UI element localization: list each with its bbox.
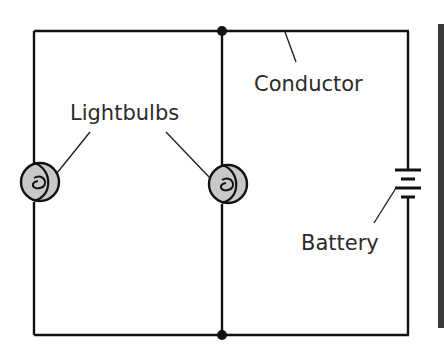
bottom-junction-dot bbox=[217, 330, 227, 340]
battery-pointer bbox=[374, 188, 396, 223]
lightbulbs-pointer-left bbox=[57, 132, 90, 173]
conductor-label: Conductor bbox=[254, 72, 363, 96]
circuit-diagram: Conductor Lightbulbs Battery bbox=[0, 0, 444, 364]
battery-icon bbox=[395, 170, 421, 197]
middle-lightbulb-icon bbox=[209, 165, 247, 203]
lightbulbs-pointer-right bbox=[166, 132, 210, 178]
conductor-pointer bbox=[285, 32, 296, 62]
battery-label: Battery bbox=[301, 231, 379, 255]
top-junction-dot bbox=[217, 26, 227, 36]
lightbulbs-label: Lightbulbs bbox=[70, 101, 179, 125]
left-lightbulb-icon bbox=[21, 163, 59, 201]
edge-bar bbox=[438, 24, 444, 328]
